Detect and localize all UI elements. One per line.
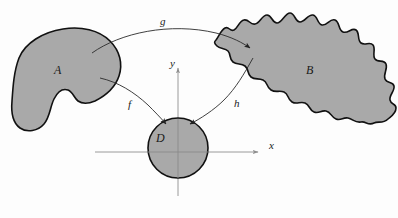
region-b-label: B	[306, 64, 313, 76]
x-axis-label: x	[269, 140, 274, 151]
diagram-figure: A B D g f h x y	[0, 0, 398, 218]
y-axis-label: y	[170, 58, 175, 69]
map-h-arrow	[190, 58, 253, 124]
region-d-label: D	[156, 132, 165, 144]
map-h-label: h	[234, 98, 240, 109]
map-g-label: g	[160, 16, 166, 27]
map-f-label: f	[128, 99, 131, 110]
region-a-label: A	[54, 64, 61, 76]
diagram-canvas	[0, 0, 398, 218]
